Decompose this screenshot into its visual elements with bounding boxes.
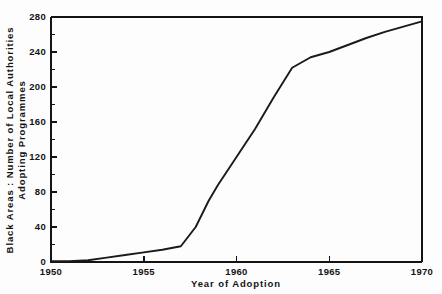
x-tick-label: 1965 — [318, 266, 341, 277]
x-axis-tick-labels: 19501955196019651970 — [40, 266, 433, 277]
x-tick-label: 1970 — [411, 266, 433, 277]
axis-spines — [51, 17, 422, 262]
y-tick-label: 120 — [29, 151, 46, 162]
y-tick-label: 40 — [35, 221, 46, 232]
y-tick-label: 240 — [29, 46, 46, 57]
y-tick-label: 160 — [29, 116, 46, 127]
x-axis-title: Year of Adoption — [191, 278, 281, 289]
x-tick-label: 1950 — [40, 266, 62, 277]
y-tick-label: 200 — [29, 81, 46, 92]
plot-frame — [51, 17, 422, 262]
chart-figure: 04080120160200240280 1950195519601965197… — [0, 0, 442, 294]
y-tick-label: 80 — [35, 186, 46, 197]
adoption-trend-line — [51, 21, 422, 261]
y-tick-label: 280 — [29, 11, 46, 22]
y-axis-title-group: Black Areas : Number of Local Authoritie… — [4, 27, 27, 254]
y-axis-title-line-1: Black Areas : Number of Local Authoritie… — [4, 27, 15, 254]
series-group — [51, 21, 422, 261]
y-axis-tick-labels: 04080120160200240280 — [29, 11, 46, 267]
y-axis-title-line-2: Adopting Programmes — [16, 80, 27, 200]
x-tick-label: 1955 — [133, 266, 156, 277]
x-tick-label: 1960 — [225, 266, 247, 277]
line-chart-canvas: 04080120160200240280 1950195519601965197… — [0, 0, 442, 294]
